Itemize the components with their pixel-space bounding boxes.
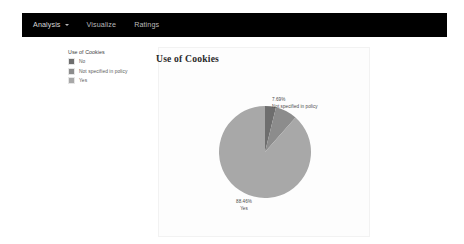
nav-item-visualize-label: Visualize: [87, 13, 117, 37]
legend-label-yes: Yes: [79, 78, 87, 83]
legend-swatch-yes: [68, 77, 75, 84]
legend-swatch-no: [68, 58, 75, 65]
main-navbar: Analysis Visualize Ratings: [22, 13, 447, 37]
legend-item-no[interactable]: No: [68, 58, 152, 65]
pie-data-label-not-specified-in-policy: 7.69% Not specified in policy: [272, 97, 318, 110]
legend-title: Use of Cookies: [68, 49, 152, 55]
nav-item-visualize[interactable]: Visualize: [78, 13, 126, 37]
pie-data-label-not-specified-name: Not specified in policy: [272, 104, 318, 111]
pie-data-label-yes: 88.46% Yes: [206, 199, 282, 212]
legend-item-not-specified-in-policy[interactable]: Not specified in policy: [68, 68, 152, 75]
nav-item-analysis[interactable]: Analysis: [24, 13, 78, 37]
pie-chart: [219, 106, 311, 198]
legend-label-not-specified-in-policy: Not specified in policy: [79, 69, 127, 74]
nav-item-analysis-label: Analysis: [33, 13, 61, 37]
pie-data-label-yes-name: Yes: [206, 206, 282, 213]
legend-label-no: No: [79, 59, 85, 64]
chart-legend: Use of Cookies No Not specified in polic…: [68, 49, 152, 87]
nav-item-ratings-label: Ratings: [134, 13, 159, 37]
legend-swatch-not-specified-in-policy: [68, 68, 75, 75]
chart-title: Use of Cookies: [156, 53, 219, 64]
legend-item-yes[interactable]: Yes: [68, 77, 152, 84]
chevron-down-icon: [65, 24, 69, 26]
pie-slices: [219, 106, 311, 198]
pie-chart-svg: [219, 106, 311, 198]
nav-item-ratings[interactable]: Ratings: [125, 13, 168, 37]
